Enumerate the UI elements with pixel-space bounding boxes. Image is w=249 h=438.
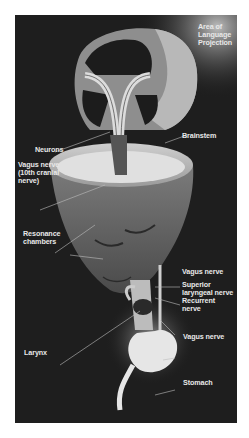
label-area-of-language-projection: Area of Language Projection xyxy=(198,23,232,48)
label-resonance-chambers: Resonance chambers xyxy=(23,230,60,246)
illustration-panel: Area of Language Projection Neurons Brai… xyxy=(15,15,237,423)
label-larynx: Larynx xyxy=(24,349,47,357)
label-vagus-nerve-cranial: Vagus nerve (10th cranial nerve) xyxy=(18,161,59,186)
label-neurons: Neurons xyxy=(35,146,63,154)
anatomy-illustration xyxy=(15,15,237,423)
label-stomach: Stomach xyxy=(183,379,213,387)
label-vagus-nerve-neck: Vagus nerve xyxy=(182,268,223,276)
head-icon xyxy=(49,135,193,293)
label-vagus-nerve-lower: Vagus nerve xyxy=(183,333,224,341)
label-brainstem: Brainstem xyxy=(182,132,216,140)
label-superior-laryngeal-nerve: Superior laryngeal nerve xyxy=(182,281,233,297)
label-recurrent-nerve: Recurrent nerve xyxy=(182,297,215,313)
